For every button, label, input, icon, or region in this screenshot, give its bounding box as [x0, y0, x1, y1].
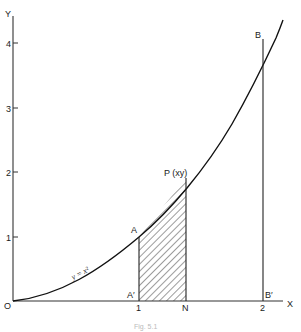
- x-tick-1: 1: [136, 303, 141, 313]
- point-a-label: A: [131, 225, 137, 235]
- point-p-label: P (xy): [164, 168, 187, 178]
- point-a-prime-label: A′: [127, 290, 135, 300]
- y-axis-label: Y: [5, 9, 11, 19]
- origin-label: O: [4, 301, 11, 311]
- y-tick-1: 1: [6, 233, 11, 243]
- x-tick-2: 2: [260, 303, 265, 313]
- figure-caption: Fig. 5.1: [134, 323, 157, 331]
- point-b-label: B: [255, 30, 261, 40]
- parabola-area-diagram: Y X O 4 3 2 1 1 2 A A′ B B′ P (xy) N y =…: [0, 0, 301, 332]
- y-ticks: [13, 43, 18, 237]
- point-n-label: N: [182, 303, 189, 313]
- point-b-prime-label: B′: [265, 290, 273, 300]
- y-tick-3: 3: [6, 104, 11, 114]
- y-tick-4: 4: [6, 39, 11, 49]
- x-axis-label: X: [287, 299, 293, 309]
- y-tick-2: 2: [6, 168, 11, 178]
